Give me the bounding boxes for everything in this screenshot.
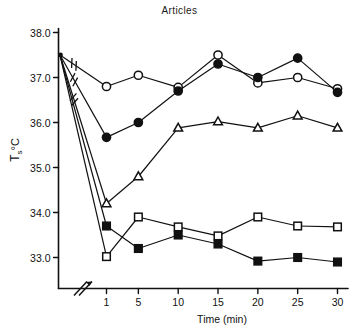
filled-circle-marker	[102, 133, 110, 141]
open-triangle-marker	[293, 111, 302, 119]
open-square-marker	[103, 253, 111, 261]
data-point	[294, 254, 302, 262]
data-point	[214, 60, 222, 68]
x-tick-label: 30	[332, 296, 344, 308]
open-square-marker	[294, 222, 302, 230]
data-point	[214, 51, 222, 59]
series-segment	[60, 55, 107, 257]
filled-square-marker	[214, 240, 222, 248]
filled-circle-marker	[333, 88, 341, 96]
open-square-marker	[334, 223, 342, 231]
series-segment	[258, 58, 298, 77]
series-segment	[138, 235, 178, 249]
y-axis-title: Ts°C	[8, 138, 24, 162]
data-point	[214, 232, 222, 240]
series-segment	[107, 226, 139, 249]
x-tick-label: 25	[292, 296, 304, 308]
series-segment	[60, 55, 107, 204]
data-point	[174, 223, 182, 231]
open-triangle-marker	[214, 117, 223, 125]
y-tick-label: 36.0	[30, 117, 51, 129]
data-point	[134, 118, 142, 126]
filled-circle-marker	[294, 54, 302, 62]
open-square-marker	[135, 213, 143, 221]
data-point	[334, 258, 342, 266]
data-point	[254, 213, 262, 221]
series-segment	[298, 226, 338, 227]
data-point	[102, 199, 111, 207]
filled-square-marker	[103, 222, 111, 230]
data-point	[294, 73, 302, 81]
data-point	[293, 111, 302, 119]
data-point	[214, 117, 223, 125]
y-axis-title-text: Ts°C	[8, 138, 24, 162]
series-segment	[218, 217, 258, 236]
series-segment	[218, 55, 258, 83]
series-origin-point	[58, 53, 63, 58]
series-segment	[178, 64, 218, 91]
data-point	[254, 257, 262, 265]
filled-square-marker	[334, 258, 342, 266]
series-segment	[60, 55, 107, 137]
x-axis-title: Time (min)	[197, 313, 247, 325]
series-segment	[218, 244, 258, 261]
series-segment	[107, 75, 139, 86]
series-segment	[138, 128, 178, 177]
open-circle-marker	[214, 51, 222, 59]
data-point	[103, 253, 111, 261]
series-segment	[258, 116, 298, 128]
series-segment	[60, 55, 107, 226]
data-point	[333, 88, 341, 96]
x-tick-label: 1	[104, 296, 110, 308]
series-segment	[218, 122, 258, 128]
series-segment	[298, 116, 338, 128]
data-point	[174, 87, 182, 95]
filled-square-marker	[294, 254, 302, 262]
filled-circle-marker	[254, 73, 262, 81]
series-segment	[178, 227, 218, 236]
filled-circle-marker	[134, 118, 142, 126]
data-point	[254, 73, 262, 81]
filled-circle-marker	[214, 60, 222, 68]
series-segment	[138, 91, 178, 123]
data-point	[135, 245, 143, 253]
series-segment	[107, 123, 139, 138]
data-point	[294, 222, 302, 230]
open-square-marker	[254, 213, 262, 221]
series-segment	[258, 258, 298, 262]
data-point	[214, 240, 222, 248]
y-tick-label: 33.0	[30, 252, 51, 264]
open-triangle-marker	[102, 199, 111, 207]
data-point	[103, 222, 111, 230]
filled-square-marker	[135, 245, 143, 253]
y-tick-label: 34.0	[30, 207, 51, 219]
y-tick-label: 38.0	[30, 27, 51, 39]
series-segment	[298, 258, 338, 263]
open-square-marker	[214, 232, 222, 240]
y-tick-label: 37.0	[30, 72, 51, 84]
series-segment	[178, 235, 218, 244]
filled-square-marker	[254, 257, 262, 265]
x-tick-label: 10	[172, 296, 184, 308]
open-square-marker	[174, 223, 182, 231]
series-segment	[138, 75, 178, 87]
filled-square-marker	[174, 231, 182, 239]
data-point	[134, 71, 142, 79]
series-segment	[178, 55, 218, 87]
data-point	[174, 231, 182, 239]
series-segment	[218, 64, 258, 78]
open-circle-marker	[134, 71, 142, 79]
series-segment	[178, 122, 218, 128]
series-segment	[258, 78, 298, 83]
data-point	[334, 223, 342, 231]
open-circle-marker	[102, 82, 110, 90]
data-point	[135, 213, 143, 221]
series-segment	[107, 177, 139, 204]
x-tick-label: 15	[212, 296, 224, 308]
series-segment	[138, 217, 178, 227]
figure-container: Articles 38.037.036.035.034.033.0Ts°C151…	[0, 0, 359, 331]
line-chart: 38.037.036.035.034.033.0Ts°C151015202530…	[0, 0, 359, 331]
data-point	[102, 133, 110, 141]
data-point	[294, 54, 302, 62]
series-segment	[258, 217, 298, 226]
